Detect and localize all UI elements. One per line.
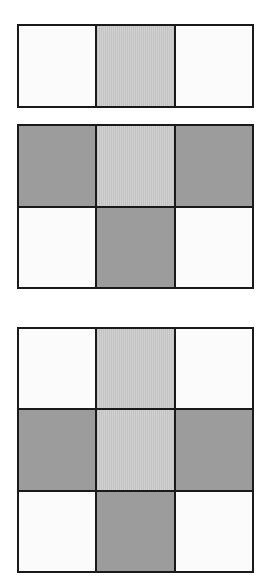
cell-r3-c1-white: [19, 492, 95, 571]
cell-r3-c2-dark: [97, 492, 173, 571]
cell-r3-c3-white: [176, 492, 252, 571]
grid-bottom: [17, 327, 254, 573]
grid-middle: [17, 124, 254, 289]
cell-r1-c3-dark: [176, 126, 252, 206]
cell-r2-c2-dark: [97, 208, 173, 288]
cell-r2-c1-dark: [19, 410, 95, 489]
grid-top: [17, 24, 254, 108]
cell-r1-c1-white: [19, 329, 95, 408]
cell-r1-c1-white: [19, 26, 95, 106]
cell-r2-c3-white: [176, 208, 252, 288]
cell-r1-c3-white: [176, 329, 252, 408]
cell-r2-c1-white: [19, 208, 95, 288]
cell-r1-c1-dark: [19, 126, 95, 206]
cell-r1-c2-light: [97, 126, 173, 206]
cell-r2-c2-light: [97, 410, 173, 489]
cell-r2-c3-dark: [176, 410, 252, 489]
cell-r1-c2-light: [97, 26, 173, 106]
cell-r1-c2-light: [97, 329, 173, 408]
cell-r1-c3-white: [176, 26, 252, 106]
